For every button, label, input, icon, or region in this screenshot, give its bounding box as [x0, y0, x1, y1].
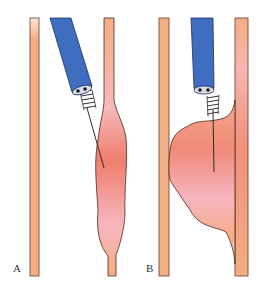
- left-wall-a: [30, 18, 39, 276]
- catheter-a: [50, 18, 92, 94]
- swelling-a: [96, 18, 127, 276]
- catheter-b: [191, 18, 214, 91]
- panel-a: [30, 18, 127, 276]
- right-wall-b: [235, 18, 248, 276]
- illustration-canvas: [0, 0, 264, 284]
- catheter-port-icon: [76, 89, 80, 93]
- panel-label-b: B: [146, 262, 153, 274]
- left-wall-b: [159, 18, 169, 276]
- catheter-tip-b: [194, 86, 214, 94]
- panel-label-a: A: [13, 262, 21, 274]
- panel-b: [159, 18, 248, 276]
- catheter-port-icon: [83, 87, 87, 91]
- swelling-b: [169, 100, 235, 264]
- catheter-port-icon: [206, 88, 210, 92]
- catheter-port-icon: [198, 88, 202, 92]
- coil-b: [207, 95, 219, 116]
- medical-illustration: A B: [0, 0, 264, 284]
